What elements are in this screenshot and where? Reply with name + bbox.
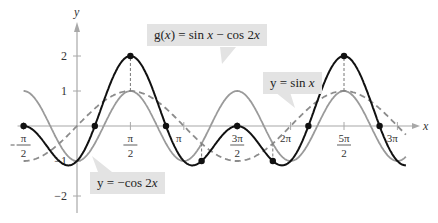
x-tick-label: 3π <box>232 132 244 144</box>
sin-label-var: x <box>309 75 315 90</box>
sin-label-part: y = sin <box>270 75 309 90</box>
y-tick-label: 2 <box>61 49 67 63</box>
sin-label-pointer <box>275 92 295 108</box>
x-tick-label: π <box>176 132 182 144</box>
x-axis-label: x <box>422 119 429 133</box>
data-point <box>127 53 133 59</box>
x-tick-label: π <box>21 132 27 144</box>
cos-label-part: y = −cos 2 <box>97 175 152 190</box>
legend-label-sin: y = sin x <box>263 72 322 94</box>
y-axis-arrow <box>74 22 80 32</box>
x-tick-label: 2 <box>341 147 347 159</box>
data-point <box>234 123 240 129</box>
data-point <box>92 123 98 129</box>
y-tick-label: 1 <box>61 84 67 98</box>
data-point <box>163 123 169 129</box>
data-point <box>341 53 347 59</box>
g-label-var: x <box>254 27 260 42</box>
data-point <box>20 123 26 129</box>
data-point <box>305 123 311 129</box>
x-tick-label: π <box>128 132 134 144</box>
g-label-part: g( <box>154 27 165 42</box>
x-tick-label: 2π <box>280 132 292 144</box>
y-tick-label: −2 <box>54 189 67 203</box>
legend-label-g: g(x) = sin x − cos 2x <box>147 24 267 46</box>
x-tick-label: 2 <box>128 147 134 159</box>
g-label-part: ) = sin <box>171 27 208 42</box>
x-tick-label: 3π <box>387 132 399 144</box>
x-tick-label: 2 <box>21 147 27 159</box>
cos-label-var: x <box>152 175 158 190</box>
g-label-part: − cos 2 <box>213 27 254 42</box>
y-axis-label: y <box>73 5 80 19</box>
series-0 <box>24 56 406 165</box>
x-tick-label: 2 <box>234 147 240 159</box>
cos-label-pointer <box>92 156 112 172</box>
data-point <box>198 158 204 164</box>
legend-label-cos: y = −cos 2x <box>90 172 165 194</box>
data-point <box>376 123 382 129</box>
x-tick-label: 5π <box>338 132 350 144</box>
data-point <box>270 158 276 164</box>
x-axis-arrow <box>412 123 420 129</box>
g-label-pointer <box>220 47 236 64</box>
